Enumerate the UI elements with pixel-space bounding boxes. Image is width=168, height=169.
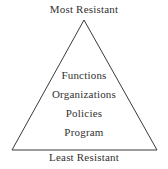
tier-program: Program xyxy=(0,123,168,142)
tier-list: Functions Organizations Policies Program xyxy=(0,66,168,142)
tier-functions: Functions xyxy=(0,66,168,85)
tier-policies: Policies xyxy=(0,104,168,123)
diagram-canvas: Most Resistant Functions Organizations P… xyxy=(0,0,168,169)
tier-organizations: Organizations xyxy=(0,85,168,104)
least-resistant-label: Least Resistant xyxy=(0,151,168,164)
